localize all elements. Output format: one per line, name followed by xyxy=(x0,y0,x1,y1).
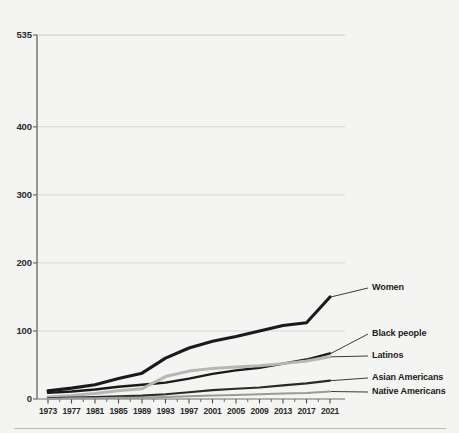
leader-line-latinos xyxy=(331,356,368,357)
label-leader-lines-group xyxy=(331,288,368,392)
axis-lines-group xyxy=(37,35,345,399)
series-lines-group xyxy=(48,297,330,399)
series-label-black-people: Black people xyxy=(372,328,426,338)
y-tick-label-535: 535 xyxy=(2,29,32,40)
x-tick-label-2021: 2021 xyxy=(315,406,345,416)
y-tick-label-400: 400 xyxy=(2,121,32,132)
y-tick-label-200: 200 xyxy=(2,257,32,268)
bottom-divider xyxy=(14,428,446,429)
gridlines-group xyxy=(37,35,345,331)
tick-marks-group xyxy=(33,35,330,404)
series-label-women: Women xyxy=(372,282,404,292)
series-line-women xyxy=(48,297,330,391)
leader-line-black-people xyxy=(331,334,368,353)
leader-line-women xyxy=(331,288,368,297)
chart-figure: Total Number of Justices 010020030040053… xyxy=(0,0,459,433)
series-label-asian-americans: Asian Americans xyxy=(372,372,443,382)
y-tick-label-300: 300 xyxy=(2,189,32,200)
chart-plot-area xyxy=(0,0,459,433)
series-label-native-americans: Native Americans xyxy=(372,386,446,396)
y-tick-label-100: 100 xyxy=(2,325,32,336)
y-tick-label-0: 0 xyxy=(2,393,32,404)
leader-line-asian-americans xyxy=(331,378,368,381)
series-line-black-people xyxy=(48,353,330,392)
series-label-latinos: Latinos xyxy=(372,350,403,360)
